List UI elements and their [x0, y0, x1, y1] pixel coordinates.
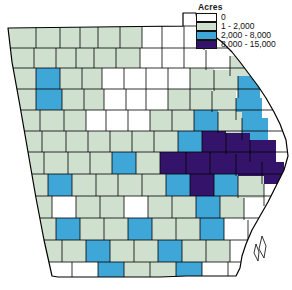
legend-swatch-0 — [196, 13, 217, 22]
legend-label-3: 8,000 - 15,000 — [221, 40, 276, 49]
coastal-detail — [254, 236, 266, 261]
map-figure: Acres 0 1 - 2,000 2,000 - 8,000 8,000 - … — [0, 0, 292, 290]
legend: Acres 0 1 - 2,000 2,000 - 8,000 8,000 - … — [196, 2, 290, 49]
legend-swatch-2 — [196, 31, 217, 40]
legend-title: Acres — [198, 2, 290, 12]
legend-item-3[interactable]: 8,000 - 15,000 — [196, 40, 290, 49]
legend-swatch-3 — [196, 40, 217, 49]
legend-swatch-1 — [196, 22, 217, 31]
